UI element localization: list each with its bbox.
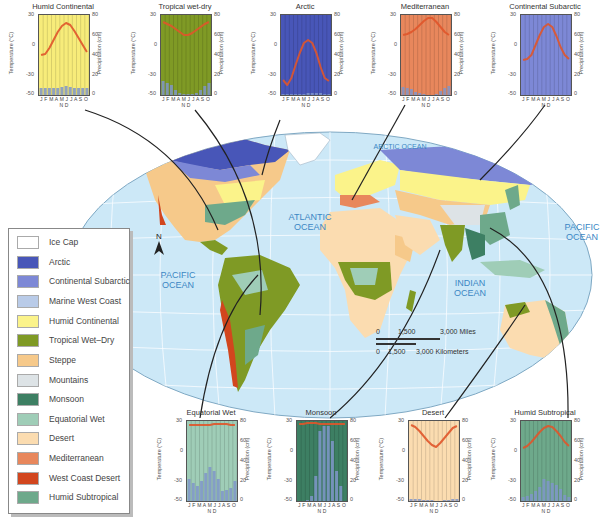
ocean-label-line: OCEAN: [270, 222, 350, 232]
ocean-label-line: PACIFIC: [552, 222, 612, 232]
temp-tick: 30: [286, 417, 292, 423]
temp-axis-label: Temperature (°C): [378, 438, 384, 480]
north-arrow-icon: N: [152, 232, 166, 256]
temp-tick: 30: [150, 11, 156, 17]
north-label: N: [152, 232, 166, 241]
climograph-title: Continental Subarctic: [490, 2, 600, 11]
legend-swatch: [17, 334, 39, 347]
temp-tick: -50: [388, 90, 396, 96]
precip-tick: 80: [574, 417, 580, 423]
precip-axis-label: Precipitation (cm): [96, 32, 102, 75]
temp-tick: 0: [402, 447, 405, 453]
month-labels: J F M A M J J A S O N D: [400, 96, 452, 108]
scale-bar-miles: [376, 338, 440, 340]
precip-axis-label: Precipitation (cm): [458, 32, 464, 75]
temp-tick: -30: [508, 71, 516, 77]
legend-swatch: [17, 256, 39, 269]
temp-axis-label: Temperature (°C): [156, 438, 162, 480]
legend-label: Desert: [49, 433, 74, 443]
temp-tick: 0: [180, 447, 183, 453]
month-labels: J F M A M J J A S O N D: [186, 502, 238, 514]
temp-tick: -30: [26, 71, 34, 77]
precip-tick: 80: [462, 417, 468, 423]
temp-tick: -30: [508, 477, 516, 483]
temp-tick: 0: [514, 447, 517, 453]
legend-item: Mediterranean: [17, 451, 104, 465]
ocean-label-line: ATLANTIC: [270, 212, 350, 222]
ocean-label-line: PACIFIC: [148, 270, 208, 280]
climograph-arctic: Arctic 30 0 -30 -50 80 60 40 20 0 Temper…: [250, 2, 360, 112]
scale-km-3000: 3,000 Kilometers: [416, 348, 469, 355]
temp-tick: 0: [154, 41, 157, 47]
legend-swatch: [17, 452, 39, 465]
climograph-plot: [160, 14, 212, 96]
legend-label: Steppe: [49, 355, 76, 365]
legend-swatch: [17, 472, 39, 485]
legend-swatch: [17, 393, 39, 406]
precip-tick: 80: [574, 11, 580, 17]
ocean-label-indian: INDIAN OCEAN: [440, 278, 500, 298]
climograph-title: Equatorial Wet: [156, 408, 266, 417]
precip-axis-label: Precipitation (cm): [578, 438, 584, 481]
temp-tick: 30: [510, 417, 516, 423]
precip-tick: 80: [214, 11, 220, 17]
climograph-plot: [520, 420, 572, 502]
month-labels: J F M A M J J A S O N D: [408, 502, 460, 514]
precip-tick: 0: [92, 90, 95, 96]
temp-tick: -50: [508, 496, 516, 502]
temp-tick: 30: [28, 11, 34, 17]
temp-tick: 30: [398, 417, 404, 423]
temp-tick: 30: [510, 11, 516, 17]
climograph-title: Arctic: [250, 2, 360, 11]
legend-label: Marine West Coast: [49, 296, 121, 306]
month-labels: J F M A M J J A S O N D: [520, 96, 572, 108]
legend-label: Mountains: [49, 375, 88, 385]
climograph-plot: [38, 14, 90, 96]
precip-axis-label: Precipitation (cm): [354, 438, 360, 481]
precip-tick: 80: [334, 11, 340, 17]
legend-item: Ice Cap: [17, 235, 78, 249]
climograph-humid-subtropical: Humid Subtropical 30 0 -30 -50 80 60 40 …: [490, 408, 600, 518]
climograph-plot: [408, 420, 460, 502]
climograph-plot: [400, 14, 452, 96]
precip-axis-label: Precipitation (cm): [218, 32, 224, 75]
climograph-plot: [186, 420, 238, 502]
climate-legend: Ice Cap Arctic Continental Subarctic Mar…: [8, 228, 130, 514]
legend-swatch: [17, 374, 39, 387]
legend-swatch: [17, 236, 39, 249]
legend-swatch: [17, 315, 39, 328]
temp-axis-label: Temperature (°C): [490, 32, 496, 74]
temp-axis-label: Temperature (°C): [250, 32, 256, 74]
legend-item: Desert: [17, 431, 74, 445]
temp-tick: -50: [148, 90, 156, 96]
ocean-label-line: OCEAN: [148, 280, 208, 290]
legend-label: Tropical Wet–Dry: [49, 335, 114, 345]
temp-axis-label: Temperature (°C): [130, 32, 136, 74]
month-labels: J F M A M J J A S O N D: [280, 96, 332, 108]
ocean-label-pacific-east: PACIFIC OCEAN: [148, 270, 208, 290]
legend-item: Marine West Coast: [17, 294, 121, 308]
scale-km-1500: 1,500: [388, 348, 406, 355]
legend-item: Arctic: [17, 255, 70, 269]
scale-km-0: 0: [376, 348, 380, 355]
climograph-title: Monsoon: [266, 408, 376, 417]
legend-swatch: [17, 295, 39, 308]
legend-label: Humid Subtropical: [49, 492, 118, 502]
legend-item: Steppe: [17, 353, 76, 367]
precip-axis-label: Precipitation (cm): [244, 438, 250, 481]
temp-tick: -50: [508, 90, 516, 96]
temp-tick: 0: [514, 41, 517, 47]
ocean-label-line: OCEAN: [552, 232, 612, 242]
precip-axis-label: Precipitation (cm): [578, 32, 584, 75]
climograph-continental-subarctic: Continental Subarctic 30 0 -30 -50 80 60…: [490, 2, 600, 112]
legend-swatch: [17, 354, 39, 367]
scale-miles-0: 0: [376, 328, 380, 335]
climograph-monsoon: Monsoon 30 0 -30 -50 80 60 40 20 0 Tempe…: [266, 408, 376, 518]
temp-tick: -30: [396, 477, 404, 483]
legend-swatch: [17, 432, 39, 445]
scale-miles-1500: 1,500: [398, 328, 416, 335]
ocean-label-line: INDIAN: [440, 278, 500, 288]
temp-tick: -50: [284, 496, 292, 502]
legend-label: Monsoon: [49, 394, 84, 404]
legend-item: Monsoon: [17, 392, 84, 406]
